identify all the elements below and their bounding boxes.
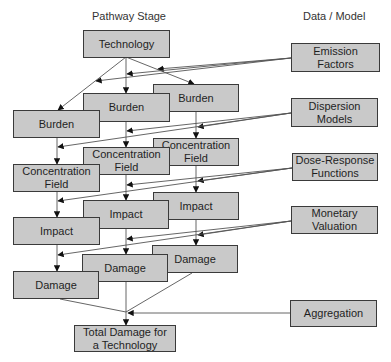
label: Technology [99, 38, 155, 51]
label: Concentration Field [22, 165, 91, 191]
box-monetary-valuation: Monetary Valuation [291, 206, 378, 234]
label: Dispersion Models [309, 100, 361, 126]
label: Burden [39, 118, 74, 131]
box-technology: Technology [83, 30, 170, 58]
label: Concentration Field [162, 139, 231, 165]
box-impact-3: Impact [13, 217, 100, 245]
box-aggregation: Aggregation [290, 300, 377, 327]
label: Dose-Response Functions [296, 154, 375, 180]
label: Burden [178, 92, 213, 105]
label: Burden [109, 101, 144, 114]
label: Emission Factors [313, 45, 358, 71]
box-total-damage: Total Damage for a Technology [74, 325, 176, 352]
label: Impact [179, 200, 212, 213]
label: Impact [40, 225, 73, 238]
box-damage-3: Damage [13, 271, 99, 299]
label: Damage [104, 262, 146, 275]
box-concentration-3: Concentration Field [13, 164, 100, 192]
label: Damage [35, 279, 77, 292]
box-dose-response: Dose-Response Functions [292, 153, 378, 181]
label: Damage [174, 253, 216, 266]
label: Concentration Field [92, 148, 161, 174]
label: Aggregation [304, 307, 363, 320]
label: Total Damage for a Technology [83, 326, 167, 352]
box-dispersion-models: Dispersion Models [291, 98, 378, 127]
box-burden-3: Burden [13, 110, 100, 138]
label: Impact [109, 208, 142, 221]
label: Monetary Valuation [312, 207, 358, 233]
box-emission-factors: Emission Factors [291, 43, 380, 72]
